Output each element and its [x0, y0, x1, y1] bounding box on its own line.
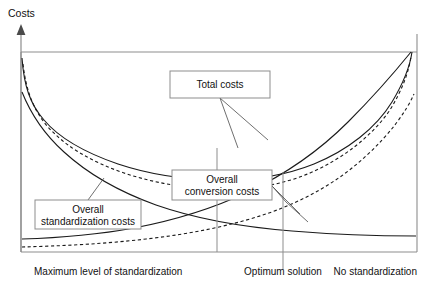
diagram-canvas: Costs: [0, 0, 429, 289]
callout-total-costs[interactable]: Total costs: [170, 71, 270, 98]
callout-standardization-costs[interactable]: Overall standardization costs: [35, 200, 141, 229]
y-axis-label: Costs: [8, 7, 35, 19]
x-label-optimum-solution: Optimum solution: [244, 266, 322, 277]
callout-conversion-costs[interactable]: Overall conversion costs: [172, 170, 272, 200]
callout-standardization-costs-line1: Overall: [72, 204, 104, 215]
up-arrow-icon: [17, 24, 26, 35]
leader-standardization-costs: [88, 178, 104, 200]
callout-standardization-costs-line2: standardization costs: [41, 216, 135, 227]
x-label-maximum-standardization: Maximum level of standardization: [34, 266, 182, 277]
x-label-no-standardization: No standardization: [334, 266, 417, 277]
cost-standardization-diagram: Costs: [0, 0, 429, 289]
callout-total-costs-label: Total costs: [196, 79, 243, 90]
y-axis: [17, 24, 26, 252]
callout-conversion-costs-line1: Overall: [206, 174, 238, 185]
callout-conversion-costs-line2: conversion costs: [185, 186, 259, 197]
